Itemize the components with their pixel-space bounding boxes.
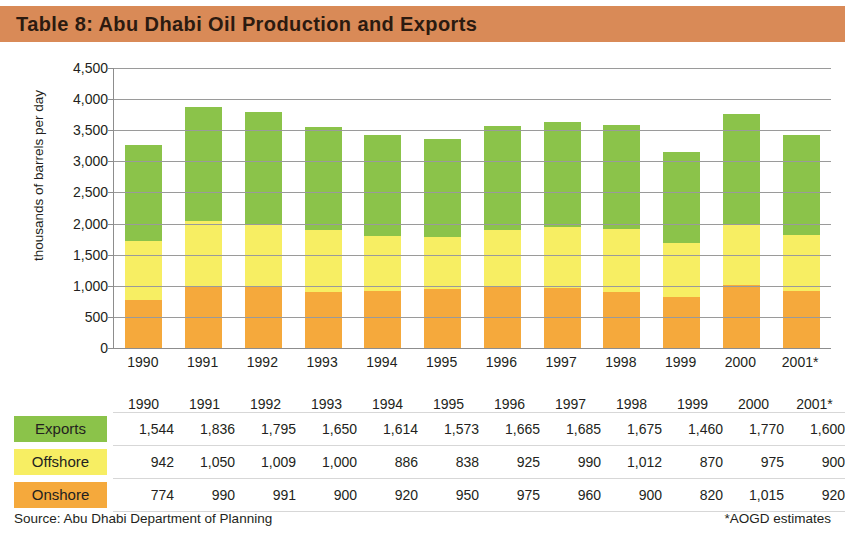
bar-slot [114,68,174,348]
table-cell: 1,836 [174,413,235,446]
bar-slot [234,68,294,348]
table-value: 920 [357,487,418,503]
table-value: 991 [235,487,296,503]
y-tick-label: 3,000 [73,154,108,168]
bar-series-group [114,68,831,348]
stacked-bar [663,152,700,348]
gridline [114,255,831,256]
estimates-note: *AOGD estimates [724,511,831,526]
table-cell: 1,614 [357,413,418,446]
table-value: 1,009 [235,454,296,470]
bar-segment-offshore [603,229,640,292]
x-tick-label: 2001* [770,354,830,378]
table-value: 1,050 [174,454,235,470]
bar-slot [532,68,592,348]
x-tick-label: 1998 [591,354,651,378]
table-year-label: 1998 [601,396,662,412]
table-cell: 1,795 [235,413,296,446]
x-tick-label: 1991 [173,354,233,378]
page-title: Table 8: Abu Dhabi Oil Production and Ex… [16,13,477,36]
x-tick-label: 1997 [531,354,591,378]
table-value: 1,015 [723,487,784,503]
table-row: Offshore9421,0501,0091,0008868389259901,… [0,446,845,479]
gridline [114,161,831,162]
table-header-row: 1990199119921993199419951996199719981999… [0,386,845,413]
table-cell: 886 [357,446,418,479]
bar-slot [652,68,712,348]
table-value: 942 [113,454,174,470]
x-tick-label: 2000 [711,354,771,378]
table-value: 1,573 [418,421,479,437]
table-cell: 1,770 [723,413,784,446]
y-tick-label: 4,500 [73,61,108,75]
table-cell: 1,665 [479,413,540,446]
table-year-label: 1999 [662,396,723,412]
x-axis-tick-labels: 1990199119921993199419951996199719981999… [113,354,830,378]
table-year-header: 1999 [662,386,723,413]
table-year-label: 1992 [235,396,296,412]
x-tick-label: 1992 [233,354,293,378]
table-year-header: 1998 [601,386,662,413]
bar-segment-exports [603,125,640,229]
table-year-header: 1991 [174,386,235,413]
table-value: 900 [601,487,662,503]
bar-segment-exports [663,152,700,243]
table-value: 1,544 [113,421,174,437]
y-tick-label: 4,000 [73,92,108,106]
x-tick-label: 1990 [113,354,173,378]
table-value: 1,770 [723,421,784,437]
bar-segment-exports [484,126,521,230]
table-cell: 975 [723,446,784,479]
table-cell: 1,573 [418,413,479,446]
gridline [114,68,831,69]
data-table: 1990199119921993199419951996199719981999… [0,386,845,512]
table-value: 1,012 [601,454,662,470]
bar-segment-offshore [544,227,581,289]
table-value: 1,665 [479,421,540,437]
table-cell: 1,009 [235,446,296,479]
stacked-bar [185,107,222,348]
table-value: 975 [723,454,784,470]
bar-segment-exports [305,127,342,230]
table-cell: 1,600 [784,413,845,446]
table-row: Exports1,5441,8361,7951,6501,6141,5731,6… [0,413,845,446]
table-value: 870 [662,454,723,470]
stacked-bar [723,114,760,348]
bar-segment-onshore [663,297,700,348]
stacked-bar [245,112,282,348]
table-corner-cell [0,386,113,413]
bar-segment-offshore [783,235,820,291]
stacked-bar [484,126,521,348]
table-year-label: 2000 [723,396,784,412]
table-value: 820 [662,487,723,503]
table-year-header: 2000 [723,386,784,413]
table-cell: 1,000 [296,446,357,479]
y-axis-tick [108,348,114,349]
table-value: 1,600 [784,421,845,437]
source-note: Source: Abu Dhabi Department of Planning [14,511,272,526]
table-value: 1,000 [296,454,357,470]
bar-segment-offshore [424,237,461,289]
table-value: 774 [113,487,174,503]
bar-segment-exports [424,139,461,237]
bar-segment-onshore [125,300,162,348]
figure-footer: Source: Abu Dhabi Department of Planning… [0,506,845,530]
table-value: 1,650 [296,421,357,437]
bar-segment-exports [783,135,820,235]
gridline [114,99,831,100]
table-year-header: 1997 [540,386,601,413]
table-value: 900 [784,454,845,470]
bar-segment-offshore [663,243,700,297]
legend-swatch-offshore: Offshore [14,449,107,475]
table-value: 1,795 [235,421,296,437]
table-value: 990 [540,454,601,470]
bar-segment-onshore [364,291,401,348]
table-cell: 900 [784,446,845,479]
x-tick-label: 1999 [651,354,711,378]
table-year-label: 1990 [113,396,174,412]
bar-segment-exports [245,112,282,224]
table-value: 886 [357,454,418,470]
x-tick-label: 1993 [292,354,352,378]
y-tick-label: 3,500 [73,123,108,137]
table-year-label: 1995 [418,396,479,412]
